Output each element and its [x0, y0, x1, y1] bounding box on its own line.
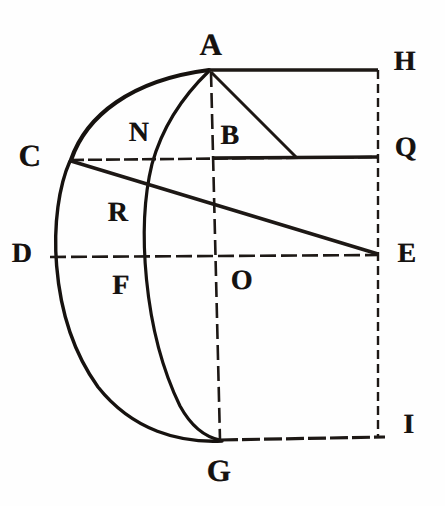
- point-label-e: E: [397, 240, 416, 268]
- point-label-c: C: [19, 140, 42, 171]
- point-label-f: F: [112, 272, 130, 300]
- horizontal-diameter-D-E: [50, 255, 378, 257]
- geometric-figure: AHNBQCRDEFOIG: [0, 0, 445, 506]
- point-label-o: O: [231, 267, 253, 295]
- segment-group: [50, 70, 385, 440]
- point-label-h: H: [394, 48, 416, 76]
- outer-arc-C-D-G: [56, 161, 222, 441]
- chord-segment-B-Q: [214, 157, 378, 158]
- point-label-q: Q: [395, 134, 417, 162]
- point-label-b: B: [220, 122, 239, 150]
- point-label-a: A: [200, 29, 223, 60]
- point-label-d: D: [12, 240, 33, 268]
- point-label-r: R: [108, 199, 129, 227]
- point-label-g: G: [207, 455, 232, 486]
- point-label-i: I: [403, 411, 414, 439]
- bottom-edge-G-I: [220, 437, 385, 440]
- point-label-k: N: [129, 119, 150, 147]
- figure-canvas: [0, 0, 445, 506]
